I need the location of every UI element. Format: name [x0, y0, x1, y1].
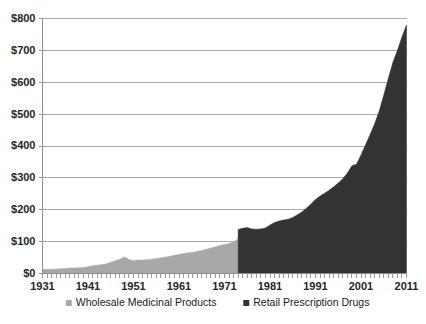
y-axis-tick-labels: $0$100$200$300$400$500$600$700$800	[11, 12, 35, 279]
plot-areas-group	[43, 25, 407, 274]
x-tick-label-1941: 1941	[76, 280, 100, 292]
chart-container: $0$100$200$300$400$500$600$700$800 19311…	[0, 0, 426, 324]
y-tick-label-200: $200	[11, 203, 35, 215]
y-tick-label-0: $0	[23, 267, 35, 279]
series-area-wholesale-medicinal-products	[43, 239, 239, 274]
y-tick-label-600: $600	[11, 76, 35, 88]
x-tick-label-1951: 1951	[121, 280, 145, 292]
legend-swatch-retail-prescription-drugs	[243, 300, 249, 306]
y-tick-label-500: $500	[11, 108, 35, 120]
y-tick-label-100: $100	[11, 235, 35, 247]
x-tick-label-1981: 1981	[258, 280, 282, 292]
legend-label-retail-prescription-drugs: Retail Prescription Drugs	[253, 296, 369, 308]
chart-legend: Wholesale Medicinal ProductsRetail Presc…	[66, 296, 370, 308]
x-axis-tick-labels: 193119411951196119711981199120012011	[30, 280, 418, 292]
y-tick-label-700: $700	[11, 44, 35, 56]
x-tick-label-2001: 2001	[349, 280, 373, 292]
legend-label-wholesale-medicinal-products: Wholesale Medicinal Products	[76, 296, 217, 308]
series-area-retail-prescription-drugs	[238, 25, 406, 274]
x-tick-label-1991: 1991	[303, 280, 327, 292]
x-tick-label-1931: 1931	[30, 280, 54, 292]
area-chart: $0$100$200$300$400$500$600$700$800 19311…	[0, 0, 426, 324]
legend-swatch-wholesale-medicinal-products	[66, 300, 72, 306]
x-tick-label-1971: 1971	[212, 280, 236, 292]
y-tick-label-300: $300	[11, 171, 35, 183]
x-tick-label-1961: 1961	[167, 280, 191, 292]
y-tick-label-800: $800	[11, 12, 35, 24]
y-tick-label-400: $400	[11, 139, 35, 151]
x-tick-label-2011: 2011	[395, 280, 419, 292]
x-minor-ticks-group	[43, 274, 407, 278]
